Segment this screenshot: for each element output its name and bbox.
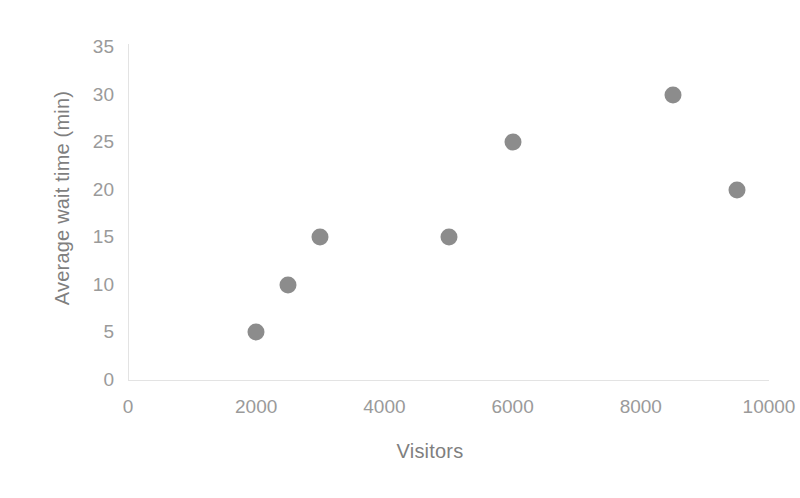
y-tick-label: 25 <box>74 131 114 153</box>
x-axis-title: Visitors <box>130 440 730 463</box>
plot-area <box>128 44 769 380</box>
x-tick-label: 10000 <box>724 395 800 419</box>
y-tick-label: 10 <box>74 274 114 296</box>
x-tick-label: 0 <box>83 395 173 419</box>
x-tick-label: 8000 <box>596 395 686 419</box>
y-tick-label: 0 <box>74 369 114 391</box>
data-point[interactable] <box>504 134 521 151</box>
x-tick-label: 4000 <box>339 395 429 419</box>
data-point[interactable] <box>440 229 457 246</box>
y-tick-label: 20 <box>74 179 114 201</box>
data-point[interactable] <box>312 229 329 246</box>
y-tick-label: 35 <box>74 36 114 58</box>
data-point[interactable] <box>248 324 265 341</box>
data-point[interactable] <box>728 181 745 198</box>
x-axis-line <box>128 380 769 381</box>
y-tick-label: 30 <box>74 84 114 106</box>
x-tick-label: 6000 <box>468 395 558 419</box>
y-tick-label: 5 <box>74 321 114 343</box>
x-tick-label: 2000 <box>211 395 301 419</box>
data-point[interactable] <box>664 86 681 103</box>
data-point[interactable] <box>280 276 297 293</box>
y-tick-label: 15 <box>74 226 114 248</box>
